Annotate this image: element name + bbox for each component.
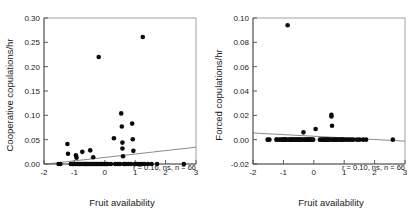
data-point (330, 123, 335, 128)
data-point (285, 23, 290, 28)
y-tick-label-forced: -0.02 (231, 160, 250, 169)
data-point (311, 137, 316, 142)
data-point (301, 130, 306, 135)
y-axis-title-forced: Forced copulations/hr (213, 49, 224, 140)
y-tick-label-cooperative: 0.30 (24, 14, 40, 23)
data-point (120, 124, 125, 129)
data-point (109, 162, 114, 167)
data-point (339, 137, 344, 142)
y-tick-label-cooperative: 0.00 (24, 160, 40, 169)
data-point (131, 149, 136, 154)
data-point (91, 155, 96, 160)
scatter-plot-cooperative: 0.000.050.100.150.200.250.30-2-10123 Coo… (0, 0, 209, 218)
y-tick-label-forced: 0.02 (233, 111, 249, 120)
y-tick-label-cooperative: 0.15 (24, 87, 40, 96)
data-point (119, 111, 124, 116)
data-point (65, 142, 70, 147)
data-point (130, 121, 135, 126)
data-point (74, 155, 79, 160)
data-point (329, 114, 334, 119)
y-tick-label-forced: 0.10 (233, 14, 249, 23)
x-tick-label-cooperative: -2 (40, 168, 48, 177)
stats-annotation-forced: r = 0.10, ns, n = 66 (342, 163, 405, 172)
x-tick-label-cooperative: -1 (71, 168, 79, 177)
y-tick-label-forced: 0.08 (233, 38, 249, 47)
y-tick-label-cooperative: 0.10 (24, 111, 40, 120)
x-tick-label-forced: -1 (280, 168, 288, 177)
x-tick-label-cooperative: 0 (103, 168, 108, 177)
plot-frame-forced (253, 18, 405, 164)
data-point (313, 127, 318, 132)
y-axis-title-cooperative: Cooperative copulations/hr (4, 38, 15, 151)
data-point (58, 162, 63, 167)
y-tick-label-forced: 0.00 (233, 136, 249, 145)
data-point (120, 140, 125, 145)
data-point (88, 148, 93, 153)
x-tick-label-forced: 0 (312, 168, 317, 177)
figure-container: 0.000.050.100.150.200.250.30-2-10123 Coo… (0, 0, 419, 218)
data-point (364, 137, 369, 142)
y-tick-label-cooperative: 0.20 (24, 63, 40, 72)
data-point (96, 55, 101, 60)
data-point (267, 137, 272, 142)
stats-annotation-cooperative: r = 0.16, ns, n = 66 (133, 163, 196, 172)
chart-panel-forced: -0.020.000.020.040.060.080.10-2-10123 Fo… (209, 0, 418, 218)
x-axis-title-cooperative: Fruit availability (89, 197, 155, 208)
x-axis-title-forced: Fruit availability (298, 197, 364, 208)
scatter-plot-forced: -0.020.000.020.040.060.080.10-2-10123 Fo… (209, 0, 418, 218)
data-point (141, 35, 146, 40)
chart-panel-cooperative: 0.000.050.100.150.200.250.30-2-10123 Coo… (0, 0, 209, 218)
y-tick-label-forced: 0.04 (233, 87, 249, 96)
data-point (121, 154, 126, 159)
data-point (130, 137, 135, 142)
data-point (80, 150, 85, 155)
data-point (112, 136, 117, 141)
y-tick-label-cooperative: 0.25 (24, 38, 40, 47)
data-point (120, 146, 125, 151)
data-point (391, 137, 396, 142)
y-tick-label-cooperative: 0.05 (24, 136, 40, 145)
y-tick-label-forced: 0.06 (233, 63, 249, 72)
data-point (66, 151, 71, 156)
x-tick-label-forced: -2 (249, 168, 257, 177)
